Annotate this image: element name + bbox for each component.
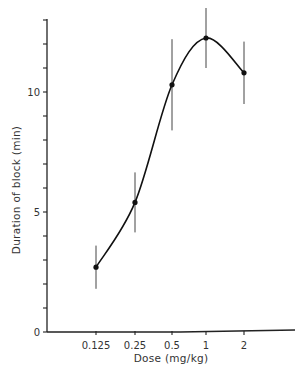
y-tick-label: 0 bbox=[34, 327, 40, 338]
data-point bbox=[241, 70, 246, 75]
y-axis-ticks: 0510 bbox=[27, 20, 47, 338]
data-point bbox=[169, 82, 174, 87]
x-tick-label: 2 bbox=[241, 340, 247, 351]
dose-response-chart: 0510 0.1250.250.512 Duration of block (m… bbox=[0, 0, 299, 369]
x-tick-label: 1 bbox=[203, 340, 209, 351]
axes bbox=[47, 19, 295, 332]
x-axis-line bbox=[47, 330, 295, 332]
data-point bbox=[132, 200, 137, 205]
data-series bbox=[93, 8, 246, 289]
x-axis-title: Dose (mg/kg) bbox=[134, 352, 209, 364]
data-point bbox=[203, 35, 208, 40]
x-tick-label: 0.25 bbox=[124, 340, 146, 351]
y-tick-label: 10 bbox=[27, 87, 40, 98]
data-point bbox=[93, 265, 98, 270]
fitted-curve bbox=[96, 38, 244, 267]
x-tick-label: 0.125 bbox=[82, 340, 111, 351]
x-tick-label: 0.5 bbox=[164, 340, 180, 351]
y-axis-title: Duration of block (min) bbox=[10, 126, 22, 255]
x-axis-ticks: 0.1250.250.512 bbox=[82, 331, 248, 351]
y-tick-label: 5 bbox=[34, 207, 40, 218]
